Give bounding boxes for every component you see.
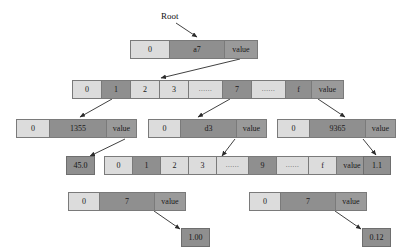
branch2-slot-f[interactable]: f — [285, 80, 312, 99]
leafleft-cell-prefix[interactable]: 0 — [68, 192, 100, 211]
root-label: Root — [161, 11, 179, 21]
ext9365-cell-value[interactable]: value — [365, 119, 396, 138]
value-box-0-12[interactable]: 0.12 — [362, 228, 391, 247]
ext1355-cell-value[interactable]: value — [106, 119, 137, 138]
ext1355-cell-key[interactable]: 1355 — [49, 119, 107, 138]
leafleft-cell-key[interactable]: 7 — [99, 192, 155, 211]
branch2-cell-value[interactable]: value — [311, 80, 344, 99]
branch2-ellipsis-right: ...... — [251, 80, 286, 99]
branch4-ellipsis-right: ...... — [276, 156, 309, 175]
extension-node-1355[interactable]: 0 1355 value — [16, 119, 136, 138]
root-cell-key[interactable]: a7 — [169, 40, 225, 59]
extd3-cell-key[interactable]: d3 — [180, 119, 237, 138]
leaf-node-right[interactable]: 0 7 value — [249, 192, 366, 211]
leaf-node-left[interactable]: 0 7 value — [68, 192, 185, 211]
branch2-ellipsis-left: ...... — [188, 80, 223, 99]
root-cell-value[interactable]: value — [224, 40, 258, 59]
value-box-45-0[interactable]: 45.0 — [66, 156, 95, 175]
branch4-slot-0[interactable]: 0 — [104, 156, 133, 175]
ext9365-cell-key[interactable]: 9365 — [309, 119, 366, 138]
trie-diagram: Root 0 a7 value 0 1 2 3 ...... 7 ...... … — [0, 0, 406, 252]
value-box-1-1[interactable]: 1.1 — [363, 156, 391, 175]
branch2-slot-0[interactable]: 0 — [72, 80, 102, 99]
leafleft-cell-value[interactable]: value — [154, 192, 186, 211]
branch4-ellipsis-left: ...... — [216, 156, 249, 175]
leafright-cell-prefix[interactable]: 0 — [249, 192, 281, 211]
ext1355-cell-prefix[interactable]: 0 — [16, 119, 50, 138]
branch2-slot-3[interactable]: 3 — [159, 80, 189, 99]
extension-node-d3[interactable]: 0 d3 value — [148, 119, 266, 138]
branch4-slot-1[interactable]: 1 — [132, 156, 161, 175]
extd3-cell-value[interactable]: value — [236, 119, 267, 138]
leafright-cell-key[interactable]: 7 — [280, 192, 336, 211]
branch2-slot-1[interactable]: 1 — [101, 80, 131, 99]
branch2-slot-7[interactable]: 7 — [222, 80, 252, 99]
root-cell-prefix[interactable]: 0 — [130, 40, 170, 59]
leafright-cell-value[interactable]: value — [335, 192, 367, 211]
root-extension-node[interactable]: 0 a7 value — [130, 40, 257, 59]
branch2-slot-2[interactable]: 2 — [130, 80, 160, 99]
extd3-cell-prefix[interactable]: 0 — [148, 119, 181, 138]
extension-node-9365[interactable]: 0 9365 value — [277, 119, 395, 138]
branch-node-level4[interactable]: 0 1 2 3 ...... 9 ...... f value — [104, 156, 367, 175]
branch-node-level2[interactable]: 0 1 2 3 ...... 7 ...... f value — [72, 80, 343, 99]
branch4-slot-9[interactable]: 9 — [248, 156, 277, 175]
value-box-1-00[interactable]: 1.00 — [181, 228, 210, 247]
branch4-slot-f[interactable]: f — [308, 156, 337, 175]
branch4-slot-3[interactable]: 3 — [188, 156, 217, 175]
ext9365-cell-prefix[interactable]: 0 — [277, 119, 310, 138]
branch4-slot-2[interactable]: 2 — [160, 156, 189, 175]
